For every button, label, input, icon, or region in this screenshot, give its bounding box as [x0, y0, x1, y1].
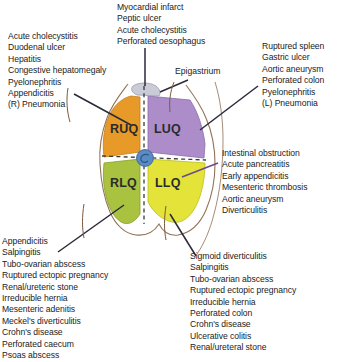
right-upper-quadrant-causes-list: Acute cholecystitis Duodenal ulcer Hepat…	[8, 31, 106, 111]
list-item: Salpingitis	[190, 262, 296, 273]
list-item: Mesenteric adenitis	[2, 304, 108, 315]
left-lower-quadrant-causes-list: Sigmoid diverticulitis Salpingitis Tubo-…	[190, 251, 296, 354]
list-item: Aortic aneurysm	[262, 64, 324, 75]
right-lower-quadrant-causes-list: Appendicitis Salpingitis Tubo-ovarian ab…	[2, 236, 108, 361]
list-item: Pyelonephritis	[262, 87, 324, 98]
list-item: Pyelonephritis	[8, 77, 106, 88]
list-item: Congestive hepatomegaly	[8, 65, 106, 76]
epigastrium-shape	[132, 83, 160, 96]
list-item: Ruptured spleen	[262, 41, 324, 52]
list-item: Acute cholecystitis	[117, 25, 205, 36]
list-item: Gastric ulcer	[262, 52, 324, 63]
leader-line-top-right	[200, 86, 258, 130]
list-item: Peptic ulcer	[117, 13, 205, 24]
leader-line-epigastrium	[160, 80, 188, 92]
list-item: Diverticulitis	[222, 205, 307, 216]
list-item: Hepatitis	[8, 54, 106, 65]
quadrant-label-llq: LLQ	[155, 176, 181, 190]
list-item: Perforated oesophagus	[117, 36, 205, 47]
right-lower-quadrant-shape	[103, 159, 140, 224]
list-item: Ruptured ectopic pregnancy	[190, 285, 296, 296]
list-item: Salpingitis	[2, 247, 108, 258]
list-item: Ruptured ectopic pregnancy	[2, 270, 108, 281]
list-item: Mesenteric thrombosis	[222, 182, 307, 193]
list-item: Acute pancreatitis	[222, 159, 307, 170]
list-item: Crohn's disease	[2, 327, 108, 338]
list-item: Ulcerative colitis	[190, 331, 296, 342]
list-item: Duodenal ulcer	[8, 42, 106, 53]
list-item: Irreducible hernia	[2, 293, 108, 304]
list-item: Meckel's diverticulitis	[2, 316, 108, 327]
list-item: Perforated caecum	[2, 339, 108, 350]
left-upper-quadrant-causes-list: Ruptured spleen Gastric ulcer Aortic ane…	[262, 41, 324, 109]
list-item: Intestinal obstruction	[222, 148, 307, 159]
quadrant-label-rlq: RLQ	[110, 176, 137, 190]
list-item: (L) Pneumonia	[262, 98, 324, 109]
list-item: Renal/ureteral stone	[190, 342, 296, 353]
list-item: Appendicitis	[2, 236, 108, 247]
list-item: Perforated colon	[190, 308, 296, 319]
list-item: Crohn's disease	[190, 319, 296, 330]
list-item: Perforated colon	[262, 75, 324, 86]
list-item: Appendicitis	[8, 88, 106, 99]
epigastrium-label: Epigastrium	[175, 66, 220, 77]
list-item: Renal/ureteric stone	[2, 282, 108, 293]
left-lower-quadrant-shape	[148, 159, 205, 222]
list-item: Myocardial infarct	[117, 2, 205, 13]
periumbilical-causes-list: Intestinal obstruction Acute pancreatiti…	[222, 148, 307, 216]
list-item: Aortic aneurysm	[222, 194, 307, 205]
list-item: Acute cholecystitis	[8, 31, 106, 42]
list-item: Sigmoid diverticulitis	[190, 251, 296, 262]
list-item: Tubo-ovarian abscess	[190, 274, 296, 285]
epigastric-causes-list: Myocardial infarct Peptic ulcer Acute ch…	[117, 2, 205, 48]
quadrant-label-ruq: RUQ	[110, 122, 138, 136]
abdominal-quadrants-diagram: RUQ LUQ RLQ LLQ Myocardial infarct Pepti…	[0, 0, 345, 362]
umbilicus-marker	[137, 150, 154, 167]
list-item: Irreducible hernia	[190, 297, 296, 308]
list-item: Psoas abscess	[2, 350, 108, 361]
list-item: (R) Pneumonia	[8, 99, 106, 110]
quadrant-label-luq: LUQ	[154, 122, 181, 136]
list-item: Early appendicitis	[222, 171, 307, 182]
list-item: Tubo-ovarian abscess	[2, 259, 108, 270]
